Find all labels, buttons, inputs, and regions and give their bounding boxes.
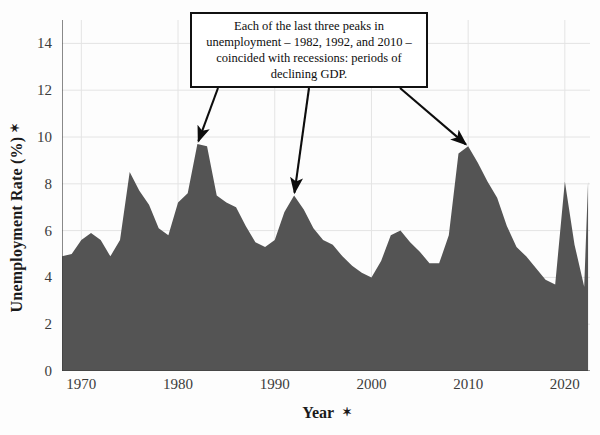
y-tick-label: 8 xyxy=(6,175,52,192)
x-axis-title: Year ✶ xyxy=(62,404,592,422)
x-tick-label: 2000 xyxy=(356,376,386,393)
y-tick-label: 14 xyxy=(6,35,52,52)
x-tick-label: 1980 xyxy=(163,376,193,393)
unemployment-area-series xyxy=(62,144,588,371)
unemployment-rate-area-chart: Unemployment Rate (%) ✶ 02468101214 1970… xyxy=(0,0,600,435)
x-tick-label: 1990 xyxy=(260,376,290,393)
annotation-callout-box: Each of the last three peaks inunemploym… xyxy=(190,12,428,88)
x-tick-label: 1970 xyxy=(66,376,96,393)
y-tick-label: 10 xyxy=(6,129,52,146)
y-tick-label: 0 xyxy=(6,363,52,380)
y-tick-label: 12 xyxy=(6,82,52,99)
annotation-callout-text: Each of the last three peaks inunemploym… xyxy=(206,18,412,82)
x-tick-label: 2010 xyxy=(453,376,483,393)
y-tick-label: 4 xyxy=(6,269,52,286)
x-tick-label: 2020 xyxy=(550,376,580,393)
y-tick-label: 2 xyxy=(6,316,52,333)
y-tick-label: 6 xyxy=(6,222,52,239)
x-axis-title-footnote-marker: ✶ xyxy=(342,405,352,419)
y-axis-tick-labels: 02468101214 xyxy=(0,0,52,435)
x-axis-title-text: Year xyxy=(302,404,334,421)
